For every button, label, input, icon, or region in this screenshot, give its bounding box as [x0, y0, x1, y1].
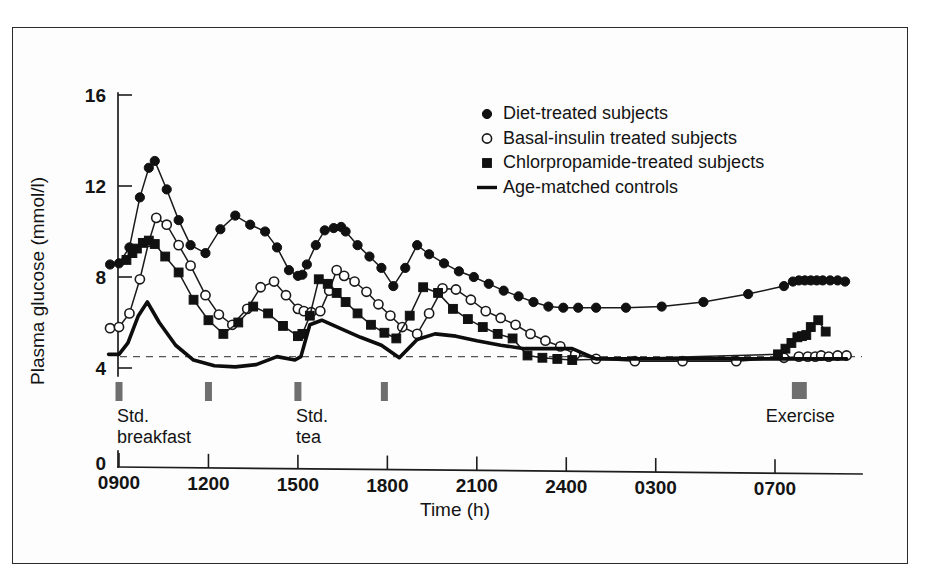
data-point: [541, 336, 550, 345]
data-point: [389, 282, 398, 291]
data-point: [302, 260, 311, 269]
data-point: [264, 309, 273, 318]
data-point: [174, 241, 183, 250]
y-axis-title: Plasma glucose (mmol/l): [27, 177, 48, 385]
data-point: [174, 216, 183, 225]
y-tick-label: 4: [95, 358, 106, 379]
data-point: [311, 241, 320, 250]
data-point: [135, 193, 144, 202]
legend-marker-open-circle: [482, 134, 491, 143]
data-point: [511, 320, 520, 329]
data-point: [481, 307, 490, 316]
data-point: [544, 302, 553, 311]
data-point: [454, 267, 463, 276]
data-point: [279, 322, 288, 331]
data-point: [186, 261, 195, 270]
data-point: [463, 315, 472, 324]
data-point: [508, 334, 517, 343]
data-point: [161, 252, 170, 261]
data-point: [374, 300, 383, 309]
y-tick-label: 12: [85, 176, 106, 197]
data-point: [162, 220, 171, 229]
x-tick-label: 0900: [98, 472, 140, 493]
legend-marker-filled-circle: [482, 109, 491, 118]
data-point: [340, 271, 349, 280]
data-point: [574, 303, 583, 312]
y-tick-label: 16: [85, 85, 106, 106]
data-point: [559, 303, 568, 312]
data-point: [332, 289, 341, 298]
data-point: [269, 277, 278, 286]
data-point: [553, 355, 562, 364]
data-point: [284, 266, 293, 275]
legend-label: Age-matched controls: [503, 177, 678, 197]
legend-label: Diet-treated subjects: [503, 103, 668, 123]
x-tick-label: 1200: [187, 473, 229, 494]
annotation-std-breakfast-line2: breakfast: [117, 427, 191, 447]
series-open-circle: [105, 213, 851, 366]
legend-label: Basal-insulin treated subjects: [503, 128, 737, 148]
x-tick-label: 1800: [366, 475, 408, 496]
data-point: [219, 329, 228, 338]
annotations-group: [116, 382, 807, 401]
data-point: [214, 310, 223, 319]
data-point: [314, 275, 323, 284]
data-point: [246, 220, 255, 229]
data-point: [523, 351, 532, 360]
data-point: [478, 323, 487, 332]
data-point: [234, 318, 243, 327]
legend: [477, 109, 497, 187]
glucose-profile-chart: 0481216Plasma glucose (mmol/l)0900120015…: [0, 0, 926, 580]
figure-root: 0481216Plasma glucose (mmol/l)0900120015…: [0, 0, 926, 580]
data-point: [341, 227, 350, 236]
data-point: [135, 275, 144, 284]
data-point: [186, 241, 195, 250]
exercise-marker: [792, 382, 807, 399]
data-point: [591, 303, 600, 312]
x-tick-label: 2400: [545, 476, 587, 497]
data-point: [469, 272, 478, 281]
data-point: [840, 277, 849, 286]
data-point: [320, 226, 329, 235]
data-point: [231, 211, 240, 220]
data-point: [439, 259, 448, 268]
data-point: [466, 295, 475, 304]
data-point: [362, 287, 371, 296]
data-point: [621, 303, 630, 312]
data-point: [201, 249, 210, 258]
series-line: [110, 161, 845, 308]
x-axis-title: Time (h): [420, 499, 490, 520]
data-point: [526, 329, 535, 338]
data-point: [499, 286, 508, 295]
data-point: [434, 289, 443, 298]
data-point: [323, 279, 332, 288]
data-point: [744, 289, 753, 298]
meal-marker: [205, 382, 212, 401]
data-point: [272, 243, 281, 252]
x-tick-label: 0300: [635, 477, 677, 498]
data-point: [377, 263, 386, 272]
data-point: [174, 268, 183, 277]
data-point: [353, 241, 362, 250]
data-point: [449, 304, 458, 313]
data-point: [341, 298, 350, 307]
data-point: [425, 309, 434, 318]
data-point: [249, 302, 258, 311]
series-filled-circle: [105, 156, 849, 312]
data-point: [105, 260, 114, 269]
data-point: [814, 316, 823, 325]
data-point: [281, 291, 290, 300]
data-point: [496, 313, 505, 322]
data-point: [162, 185, 171, 194]
data-point: [419, 283, 428, 292]
data-point: [413, 241, 422, 250]
data-point: [538, 353, 547, 362]
data-point: [386, 311, 395, 320]
data-point: [298, 270, 307, 279]
data-point: [529, 297, 538, 306]
data-point: [150, 156, 159, 165]
data-point: [392, 334, 401, 343]
data-point: [401, 263, 410, 272]
data-point: [699, 297, 708, 306]
data-point: [405, 311, 414, 320]
